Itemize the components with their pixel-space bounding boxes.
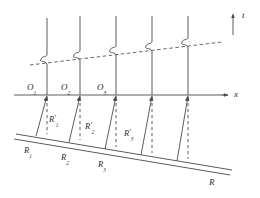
origin-letter-3: O [97,82,104,92]
inclined-reference-line [14,134,232,175]
base-label-3: R3 [98,160,106,171]
base-label-1: R1 [24,146,32,157]
spacetime-diagram: t x O1 O2 O3 R'1 R'2 R'3 R1 R2 R3 R [0,0,260,198]
worldline-5 [182,16,188,95]
trajectory-arrows [36,96,188,161]
origin-sub-2: 2 [68,90,71,96]
primed-label-2: R'2 [85,122,94,133]
origin-label-1: O1 [27,83,36,94]
primed-label-3: R'3 [124,129,133,140]
worldline-1 [41,18,47,95]
base-sub-1: 1 [29,153,32,159]
base-label-2: R2 [61,153,69,164]
origin-label-2: O2 [61,83,70,94]
t-axis-label: t [242,11,245,20]
inclined-dashed-line [30,42,222,65]
x-axis-label: x [234,90,238,99]
origin-letter-1: O [27,82,34,92]
worldline-4 [146,16,152,95]
base-sub-2: 2 [66,160,69,166]
worldline-2 [74,16,80,95]
primed-label-1: R'1 [49,115,58,126]
reference-line-label: R [209,178,215,187]
origin-letter-2: O [61,82,68,92]
base-sub-3: 3 [103,167,106,173]
dashed-verticals [47,97,188,159]
origin-sub-3: 3 [104,90,107,96]
diagram-canvas [0,0,260,198]
origin-label-3: O3 [97,83,106,94]
origin-sub-1: 1 [34,90,37,96]
